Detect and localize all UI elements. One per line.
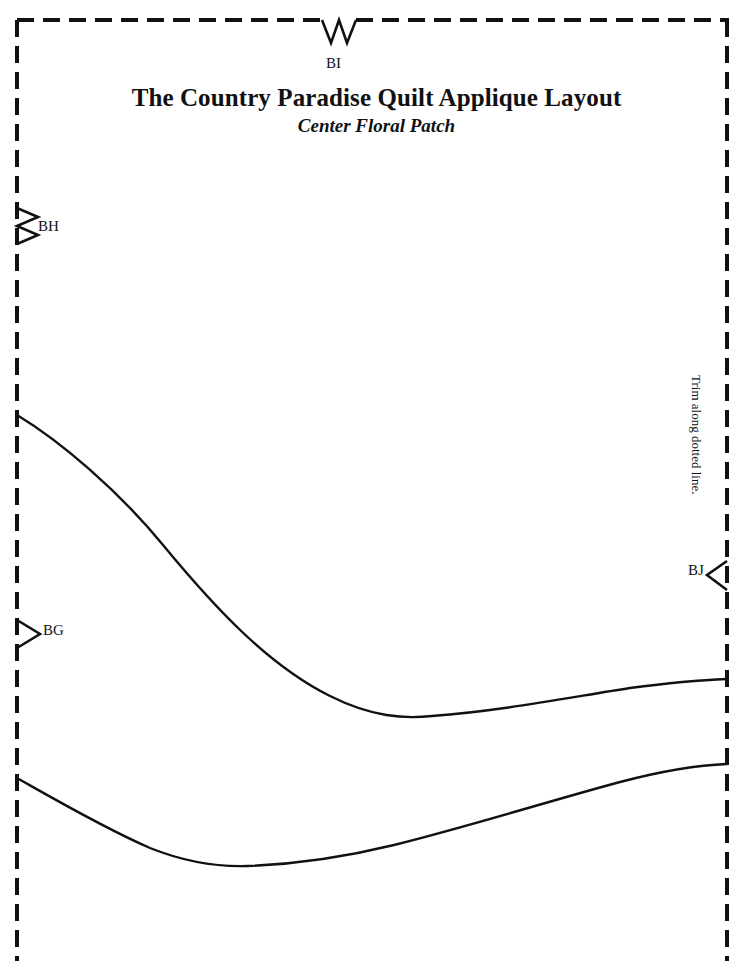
double-notch-right-icon[interactable] [17, 208, 38, 244]
upper-seam-curve [17, 415, 727, 717]
cut-lines [17, 415, 727, 866]
notch-label-bg: BG [43, 623, 64, 638]
single-notch-right-icon[interactable] [17, 620, 40, 648]
double-notch-down-icon[interactable] [322, 20, 356, 43]
single-notch-left-icon[interactable] [707, 561, 727, 590]
notch-marks [17, 20, 727, 648]
notch-label-bi: BI [326, 56, 341, 71]
pattern-drawing [0, 0, 753, 961]
lower-seam-curve [17, 764, 727, 866]
pattern-sheet [0, 0, 753, 961]
trim-instruction-text: Trim along dotted line. [690, 375, 703, 494]
trim-border-dashed [17, 20, 729, 961]
notch-label-bj: BJ [688, 563, 704, 578]
pattern-page: The Country Paradise Quilt Applique Layo… [0, 0, 753, 961]
notch-label-bh: BH [38, 219, 59, 234]
